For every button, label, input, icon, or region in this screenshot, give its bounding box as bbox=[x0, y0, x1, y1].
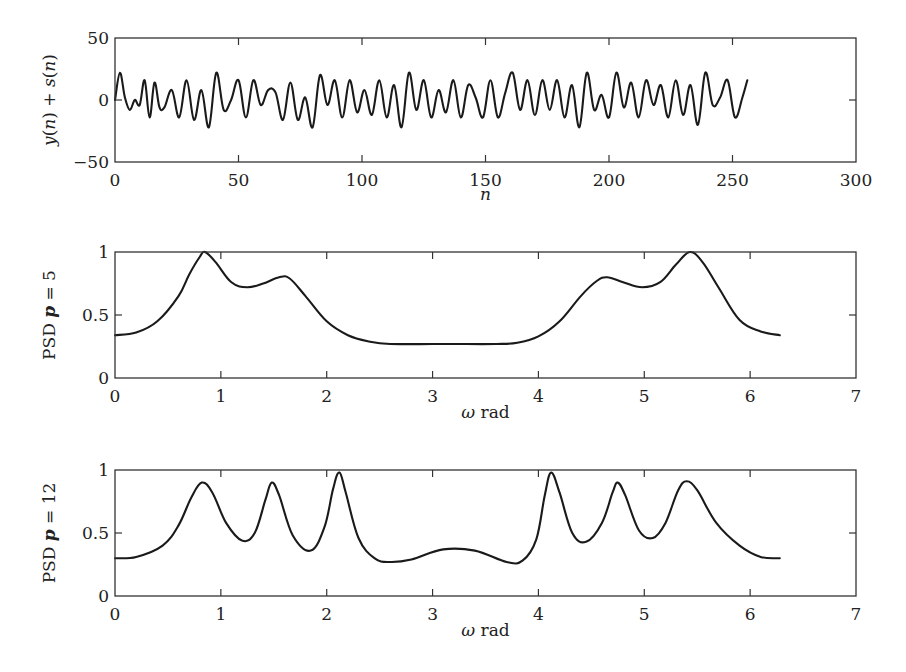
y-tick-label: 1 bbox=[98, 460, 109, 480]
x-tick-label: 0 bbox=[110, 386, 121, 406]
figure: 050100150200250300−50050ny(n) + s(n) 012… bbox=[0, 0, 906, 672]
x-tick-label: 2 bbox=[321, 604, 332, 624]
y-tick-label: 0 bbox=[98, 90, 109, 110]
axes-frame bbox=[115, 470, 856, 596]
data-curve bbox=[115, 252, 780, 344]
y-tick-label: 1 bbox=[98, 242, 109, 262]
y-axis-label: y(n) + s(n) bbox=[39, 54, 59, 147]
y-axis-label: PSD p = 12 bbox=[39, 483, 59, 584]
x-tick-label: 250 bbox=[716, 170, 748, 190]
x-tick-label: 100 bbox=[346, 170, 378, 190]
x-tick-label: 50 bbox=[228, 170, 250, 190]
x-axis-label: ω rad bbox=[461, 402, 510, 422]
data-curve bbox=[115, 72, 747, 127]
x-axis-label: n bbox=[480, 184, 491, 204]
x-tick-label: 4 bbox=[533, 386, 544, 406]
x-tick-label: 1 bbox=[215, 386, 226, 406]
x-tick-label: 2 bbox=[321, 386, 332, 406]
x-tick-label: 0 bbox=[110, 170, 121, 190]
x-tick-label: 7 bbox=[851, 386, 862, 406]
y-tick-label: 0.5 bbox=[82, 523, 109, 543]
x-tick-label: 300 bbox=[840, 170, 872, 190]
y-tick-label: 50 bbox=[87, 28, 109, 48]
y-tick-label: 0 bbox=[98, 586, 109, 606]
x-tick-label: 1 bbox=[215, 604, 226, 624]
x-axis-label: ω rad bbox=[461, 620, 510, 640]
data-curve bbox=[115, 472, 780, 563]
x-tick-label: 6 bbox=[745, 604, 756, 624]
x-tick-label: 200 bbox=[593, 170, 625, 190]
y-tick-label: 0 bbox=[98, 368, 109, 388]
y-axis-label: PSD p = 5 bbox=[39, 270, 59, 360]
x-tick-label: 3 bbox=[427, 386, 438, 406]
x-tick-label: 0 bbox=[110, 604, 121, 624]
x-tick-label: 3 bbox=[427, 604, 438, 624]
axes-frame bbox=[115, 252, 856, 378]
y-tick-label: 0.5 bbox=[82, 305, 109, 325]
x-tick-label: 5 bbox=[639, 386, 650, 406]
x-tick-label: 4 bbox=[533, 604, 544, 624]
x-tick-label: 6 bbox=[745, 386, 756, 406]
x-tick-label: 5 bbox=[639, 604, 650, 624]
time-series-panel: 050100150200250300−50050ny(n) + s(n) bbox=[39, 28, 872, 204]
psd-p5-panel: 0123456700.51ω radPSD p = 5 bbox=[39, 242, 861, 422]
x-tick-label: 7 bbox=[851, 604, 862, 624]
y-tick-label: −50 bbox=[73, 152, 109, 172]
psd-p12-panel: 0123456700.51ω radPSD p = 12 bbox=[39, 460, 861, 640]
